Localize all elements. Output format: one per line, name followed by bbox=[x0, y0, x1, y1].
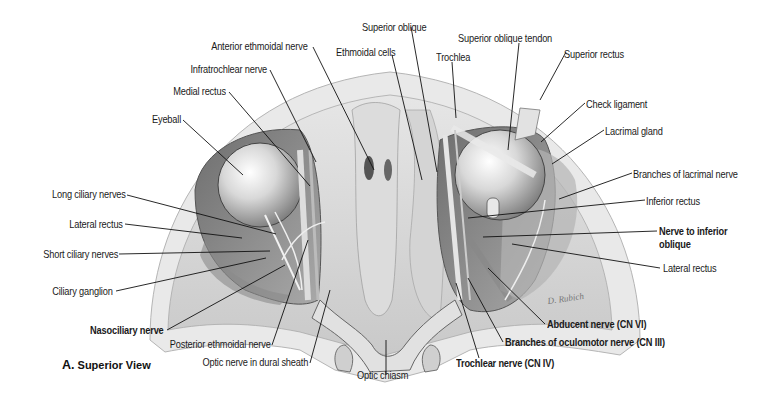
label-trochlear-nerve: Trochlear nerve (CN IV) bbox=[456, 357, 554, 369]
label-optic-nerve-dural-sheath: Optic nerve in dural sheath bbox=[202, 356, 308, 368]
figure-caption: A. Superior View bbox=[62, 358, 151, 372]
caption-text: Superior View bbox=[78, 359, 151, 371]
label-nerve-inferior-oblique: Nerve to inferior bbox=[659, 225, 727, 237]
label-inferior-rectus: Inferior rectus bbox=[646, 195, 700, 207]
label-long-ciliary-nerves: Long ciliary nerves bbox=[52, 188, 126, 200]
label-eyeball: Eyeball bbox=[152, 113, 181, 125]
label-lateral-rectus-right: Lateral rectus bbox=[663, 262, 717, 274]
label-superior-oblique: Superior oblique bbox=[362, 21, 426, 33]
label-nerve-inferior-oblique-line2: oblique bbox=[659, 238, 691, 250]
label-medial-rectus: Medial rectus bbox=[173, 85, 226, 97]
label-ethmoidal-cells: Ethmoidal cells bbox=[336, 46, 396, 58]
label-check-ligament: Check ligament bbox=[586, 98, 647, 110]
label-lateral-rectus-left: Lateral rectus bbox=[69, 218, 123, 230]
label-branches-oculomotor-nerve: Branches of oculomotor nerve (CN III) bbox=[505, 336, 665, 348]
label-lacrimal-gland: Lacrimal gland bbox=[605, 125, 663, 137]
label-infratrochlear-nerve: Infratrochlear nerve bbox=[190, 63, 267, 75]
caption-letter: A. bbox=[62, 358, 75, 372]
label-optic-chiasm: Optic chiasm bbox=[357, 369, 408, 381]
label-trochlea: Trochlea bbox=[436, 51, 470, 63]
label-posterior-ethmoidal-nerve: Posterior ethmoidal nerve bbox=[170, 338, 271, 350]
label-abducent-nerve: Abducent nerve (CN VI) bbox=[547, 318, 646, 330]
label-superior-oblique-tendon: Superior oblique tendon bbox=[458, 32, 552, 44]
label-nasociliary-nerve: Nasociliary nerve bbox=[90, 324, 164, 336]
label-anterior-ethmoidal-nerve: Anterior ethmoidal nerve bbox=[212, 40, 308, 52]
left-eyeball bbox=[218, 143, 302, 227]
label-branches-lacrimal-nerve: Branches of lacrimal nerve bbox=[633, 168, 738, 180]
label-superior-rectus: Superior rectus bbox=[564, 48, 624, 60]
label-ciliary-ganglion: Ciliary ganglion bbox=[53, 285, 113, 297]
label-short-ciliary-nerves: Short ciliary nerves bbox=[43, 248, 118, 260]
